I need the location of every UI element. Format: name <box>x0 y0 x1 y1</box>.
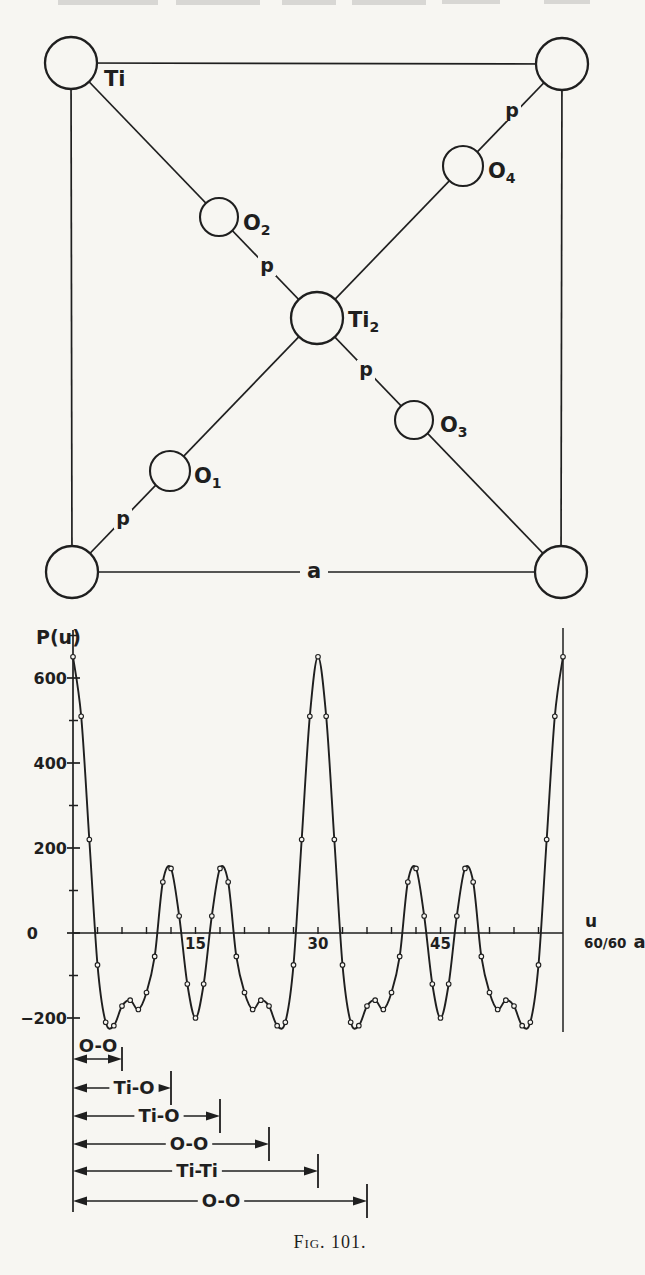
data-point-marker <box>357 1023 362 1028</box>
data-point-marker <box>438 1016 443 1021</box>
scan-artifact-top-text <box>58 0 590 5</box>
data-point-marker <box>381 1007 386 1012</box>
o1-label: O1 <box>194 464 222 491</box>
data-point-marker <box>389 990 394 995</box>
data-point-marker <box>242 990 247 995</box>
distance-label: Ti-O <box>138 1105 179 1126</box>
data-point-marker <box>430 982 435 987</box>
x-axis-end-unit: a <box>634 931 645 952</box>
cell-edge-right <box>561 64 562 572</box>
data-point-marker <box>332 837 337 842</box>
data-point-marker <box>365 1004 370 1009</box>
ti-corner-bottom-right-atom <box>535 546 587 598</box>
ti-corner-top-left-atom <box>45 37 97 89</box>
left-arrowhead-icon <box>73 1112 87 1121</box>
data-point-marker <box>520 1023 525 1028</box>
data-point-marker <box>544 837 549 842</box>
right-arrowhead-icon <box>304 1167 318 1176</box>
data-point-marker <box>422 914 427 919</box>
data-point-marker <box>291 963 296 968</box>
data-point-marker <box>561 654 566 659</box>
data-point-marker <box>553 714 558 719</box>
bond-vector-p-label-1: p <box>260 254 274 276</box>
interatomic-distance-annotations: O-OTi-OTi-OO-OTi-TiO-O <box>73 1035 367 1218</box>
data-point-marker <box>324 714 329 719</box>
data-point-marker <box>299 837 304 842</box>
data-point-marker <box>144 990 149 995</box>
data-point-marker <box>250 1007 255 1012</box>
data-point-marker <box>504 998 509 1003</box>
right-arrowhead-icon <box>255 1140 269 1149</box>
distance-label: Ti-O <box>113 1077 154 1098</box>
x-tick-label: 30 <box>308 935 329 953</box>
scanned-figure-page: aTiTi2O1O2O3O4pppp 6004002000−200153045 … <box>0 0 645 1275</box>
cell-edge-top <box>71 63 562 64</box>
data-point-marker <box>455 914 460 919</box>
ti-corner-bottom-left-atom <box>46 546 98 598</box>
data-point-marker <box>495 1007 500 1012</box>
distance-label: O-O <box>79 1035 117 1056</box>
figure-101: aTiTi2O1O2O3O4pppp 6004002000−200153045 … <box>0 0 645 1275</box>
data-point-marker <box>226 880 231 885</box>
data-point-marker <box>463 866 468 871</box>
data-point-marker <box>259 998 264 1003</box>
cell-edge-a-label: a <box>307 559 321 583</box>
data-point-marker <box>128 998 133 1003</box>
data-point-marker <box>185 982 190 987</box>
data-point-marker <box>136 1007 141 1012</box>
o3-label: O3 <box>440 413 468 440</box>
o4-label: O4 <box>488 159 516 186</box>
data-point-marker <box>152 954 157 959</box>
distance-row-ti-o-3: Ti-O <box>73 1099 220 1133</box>
data-point-marker <box>169 866 174 871</box>
left-arrowhead-icon <box>73 1140 87 1149</box>
data-point-marker <box>308 714 313 719</box>
data-point-marker <box>446 982 451 987</box>
o3-atom <box>395 401 433 439</box>
figure-caption: Fig. 101. <box>293 1232 366 1252</box>
cell-edge-left <box>71 63 72 572</box>
patterson-function-plot: 6004002000−200153045 <box>20 628 565 1212</box>
x-axis-end-fraction: 60/60 <box>584 935 627 951</box>
y-tick-label: 200 <box>34 839 67 858</box>
data-point-marker <box>512 1004 517 1009</box>
distance-label: Ti-Ti <box>176 1160 218 1181</box>
o4-atom <box>443 146 483 186</box>
data-point-marker <box>487 990 492 995</box>
data-point-marker <box>267 1004 272 1009</box>
x-tick-label: 15 <box>185 935 206 953</box>
y-tick-label: −200 <box>20 1009 67 1028</box>
data-point-marker <box>87 837 92 842</box>
y-tick-label: 400 <box>34 754 67 773</box>
data-point-marker <box>218 866 223 871</box>
distance-row-o-o-1: O-O <box>73 1035 122 1071</box>
y-axis-title: P(u) <box>36 626 81 648</box>
data-point-marker <box>373 998 378 1003</box>
data-point-marker <box>348 1020 353 1025</box>
left-arrowhead-icon <box>73 1084 87 1093</box>
data-point-marker <box>112 1023 117 1028</box>
x-tick-label: 45 <box>430 935 451 953</box>
data-point-marker <box>95 963 100 968</box>
data-point-marker <box>406 880 411 885</box>
data-point-marker <box>316 654 321 659</box>
x-axis-title: u <box>585 911 597 931</box>
ti2-centre-atom <box>291 292 343 344</box>
distance-row-o-o-6: O-O <box>73 1184 367 1218</box>
right-arrowhead-icon <box>206 1112 220 1121</box>
o1-atom <box>150 451 190 491</box>
ti-corner-top-left-label: Ti <box>104 67 126 91</box>
y-tick-label: 0 <box>27 924 38 943</box>
data-point-marker <box>71 654 76 659</box>
x-axis-end-label: 60/60 a <box>584 931 645 952</box>
patterson-curve <box>73 657 563 1029</box>
data-point-marker <box>103 1020 108 1025</box>
data-point-marker <box>79 714 84 719</box>
distance-row-o-o-4: O-O <box>73 1127 269 1161</box>
data-point-marker <box>161 880 166 885</box>
data-point-marker <box>479 954 484 959</box>
data-point-marker <box>536 963 541 968</box>
right-arrowhead-icon <box>157 1084 171 1093</box>
data-point-marker <box>177 914 182 919</box>
data-point-marker <box>397 954 402 959</box>
